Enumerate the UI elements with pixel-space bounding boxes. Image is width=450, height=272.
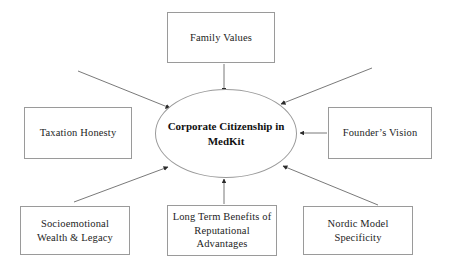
arrow-upper-right-to-center bbox=[281, 68, 372, 104]
diagram-canvas: Family Values Taxation Honesty Founder’s… bbox=[0, 0, 450, 272]
node-nordic-model-label: Nordic Model Specificity bbox=[304, 217, 412, 245]
node-taxation-honesty[interactable]: Taxation Honesty bbox=[24, 107, 132, 159]
node-nordic-model[interactable]: Nordic Model Specificity bbox=[303, 206, 413, 255]
node-long-term-benefits-label: Long Term Benefits of Reputational Advan… bbox=[168, 210, 276, 252]
node-socioemotional-wealth[interactable]: Socioemotional Wealth & Legacy bbox=[20, 206, 130, 255]
node-family-values-label: Family Values bbox=[186, 31, 256, 45]
arrow-nordic-to-center bbox=[283, 166, 378, 205]
node-corporate-citizenship[interactable]: Corporate Citizenship in MedKit bbox=[155, 89, 297, 178]
node-founders-vision-label: Founder’s Vision bbox=[339, 126, 422, 140]
node-founders-vision[interactable]: Founder’s Vision bbox=[328, 107, 432, 159]
node-long-term-benefits[interactable]: Long Term Benefits of Reputational Advan… bbox=[167, 205, 277, 256]
node-socioemotional-wealth-label: Socioemotional Wealth & Legacy bbox=[21, 217, 129, 245]
node-family-values[interactable]: Family Values bbox=[167, 12, 275, 63]
arrow-socioemotional-to-center bbox=[74, 167, 168, 202]
node-taxation-honesty-label: Taxation Honesty bbox=[36, 126, 121, 140]
arrow-upper-left-to-center bbox=[78, 71, 170, 108]
node-corporate-citizenship-label: Corporate Citizenship in MedKit bbox=[156, 119, 296, 148]
